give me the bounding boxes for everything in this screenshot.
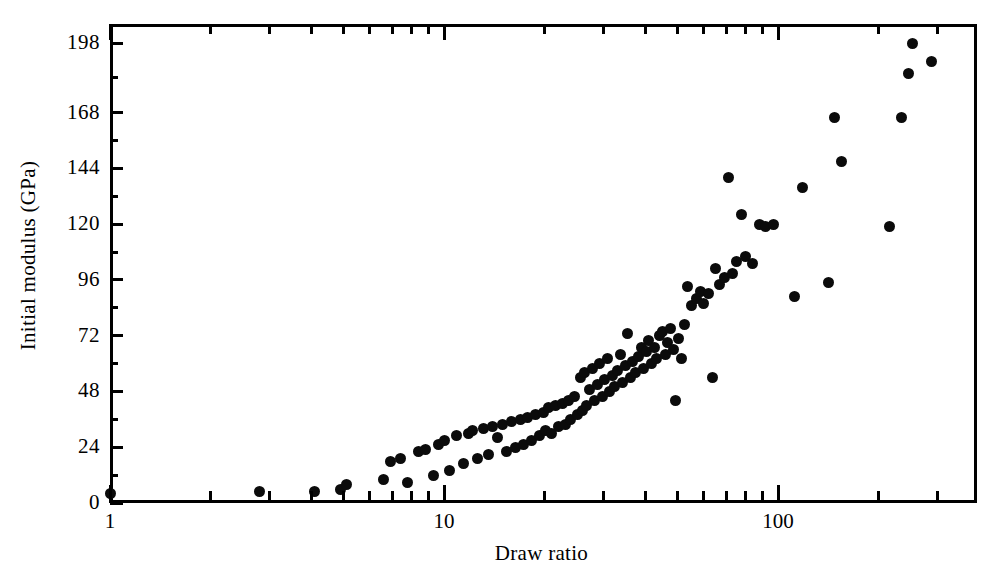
x-axis-minor-tick bbox=[268, 491, 271, 503]
x-axis-top-tick bbox=[443, 24, 446, 40]
x-axis-top-minor-tick bbox=[744, 24, 747, 34]
scatter-plot-figure: 024487296120144168198 110100 Initial mod… bbox=[0, 0, 1007, 580]
x-axis-tick bbox=[443, 485, 446, 503]
x-axis-top-minor-tick bbox=[936, 24, 939, 34]
x-axis-minor-tick bbox=[725, 491, 728, 503]
y-axis-minor-tick bbox=[110, 474, 118, 477]
x-axis-top-minor-tick bbox=[877, 24, 880, 34]
y-axis-tick bbox=[110, 111, 123, 114]
x-axis-top-minor-tick bbox=[268, 24, 271, 34]
x-tick-label: 10 bbox=[399, 509, 489, 533]
x-axis-minor-tick bbox=[427, 491, 430, 503]
x-axis-minor-tick bbox=[209, 491, 212, 503]
x-axis-minor-tick bbox=[676, 491, 679, 503]
x-axis-minor-tick bbox=[936, 491, 939, 503]
y-axis-title: Initial modulus (GPa) bbox=[16, 46, 41, 466]
x-axis-top-minor-tick bbox=[427, 24, 430, 34]
x-axis-top-minor-tick bbox=[209, 24, 212, 34]
y-axis-tick bbox=[110, 446, 123, 449]
x-axis-minor-tick bbox=[877, 491, 880, 503]
x-axis-top-minor-tick bbox=[644, 24, 647, 34]
y-axis-tick bbox=[110, 167, 123, 170]
y-axis-tick bbox=[110, 390, 123, 393]
y-axis-minor-tick bbox=[110, 76, 118, 79]
y-axis-minor-tick bbox=[110, 418, 118, 421]
x-axis-top-minor-tick bbox=[702, 24, 705, 34]
x-axis-top-minor-tick bbox=[543, 24, 546, 34]
x-axis-top-tick bbox=[777, 24, 780, 40]
y-axis-tick bbox=[110, 223, 123, 226]
x-axis-top-minor-tick bbox=[725, 24, 728, 34]
x-axis-minor-tick bbox=[761, 491, 764, 503]
x-axis-minor-tick bbox=[702, 491, 705, 503]
x-axis-top-tick bbox=[109, 24, 112, 40]
x-axis-title-text: Draw ratio bbox=[495, 541, 588, 565]
x-axis-top-minor-tick bbox=[391, 24, 394, 34]
x-tick-label: 100 bbox=[733, 509, 823, 533]
x-axis-minor-tick bbox=[342, 491, 345, 503]
x-axis-top-minor-tick bbox=[602, 24, 605, 34]
x-axis-minor-tick bbox=[744, 491, 747, 503]
x-axis-minor-tick bbox=[543, 491, 546, 503]
x-axis-minor-tick bbox=[410, 491, 413, 503]
x-axis-top-minor-tick bbox=[676, 24, 679, 34]
y-axis-tick bbox=[110, 42, 123, 45]
x-axis-minor-tick bbox=[602, 491, 605, 503]
x-axis-title: Draw ratio bbox=[0, 541, 1007, 566]
x-axis-top-minor-tick bbox=[368, 24, 371, 34]
x-axis-minor-tick bbox=[644, 491, 647, 503]
y-axis-minor-tick bbox=[110, 195, 118, 198]
x-tick-label: 1 bbox=[65, 509, 155, 533]
x-axis-top-minor-tick bbox=[410, 24, 413, 34]
x-axis-minor-tick bbox=[368, 491, 371, 503]
x-axis-top-minor-tick bbox=[761, 24, 764, 34]
y-axis-minor-tick bbox=[110, 362, 118, 365]
y-axis-minor-tick bbox=[110, 306, 118, 309]
x-axis-tick bbox=[109, 485, 112, 503]
x-axis-top-minor-tick bbox=[342, 24, 345, 34]
x-axis-top-minor-tick bbox=[310, 24, 313, 34]
x-axis-minor-tick bbox=[310, 491, 313, 503]
y-axis-tick bbox=[110, 502, 123, 505]
x-axis-minor-tick bbox=[391, 491, 394, 503]
y-axis-minor-tick bbox=[110, 251, 118, 254]
plot-frame bbox=[110, 24, 977, 503]
y-axis-tick bbox=[110, 278, 123, 281]
x-axis-tick bbox=[777, 485, 780, 503]
y-axis-tick bbox=[110, 334, 123, 337]
y-axis-minor-tick bbox=[110, 139, 118, 142]
